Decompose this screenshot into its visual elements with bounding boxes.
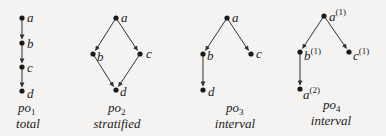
node-b — [90, 51, 95, 56]
node-b1 — [297, 49, 302, 54]
node-label: a — [27, 10, 34, 25]
node-label: c — [256, 46, 262, 61]
node-a — [224, 15, 229, 20]
edge-c-d — [119, 54, 141, 87]
node-c — [19, 64, 24, 69]
node-c1 — [346, 49, 351, 54]
diagram-po1: a b c d po1 total — [16, 10, 40, 131]
diagram-kind: interval — [215, 116, 256, 131]
node-label: d — [120, 84, 127, 99]
node-label: b — [97, 49, 104, 64]
node-label: b — [27, 36, 34, 51]
node-label: c — [27, 60, 33, 75]
node-label: c — [146, 46, 152, 61]
diagram-kind: stratified — [94, 116, 141, 131]
node-b — [200, 51, 205, 56]
diagram-name: po2 — [107, 100, 126, 117]
edge-a-b — [96, 18, 117, 51]
diagram-name: po4 — [322, 97, 341, 114]
partial-orders-figure: a b c d po1 total a b c d po2 stratified… — [0, 0, 386, 136]
diagram-name: po3 — [225, 100, 244, 117]
node-label: b(1) — [304, 46, 321, 63]
node-label: b — [207, 48, 214, 63]
diagram-kind: total — [16, 116, 40, 131]
node-d — [19, 88, 24, 93]
node-b — [19, 40, 24, 45]
node-d — [113, 87, 118, 92]
node-c — [137, 51, 142, 56]
edge-a-b — [206, 18, 228, 51]
node-label: a(2) — [303, 85, 320, 102]
node-label: d — [27, 86, 34, 101]
diagram-kind: interval — [311, 113, 352, 128]
diagram-name: po1 — [17, 100, 36, 117]
node-a2 — [297, 86, 302, 91]
edge-a1-b1 — [303, 16, 325, 49]
node-label: d — [208, 84, 215, 99]
node-label: a — [121, 10, 128, 25]
diagram-po2: a b c d po2 stratified — [90, 10, 152, 131]
diagram-po4: a(1) b(1) c(1) a(2) po4 interval — [297, 7, 369, 128]
node-a — [113, 15, 118, 20]
node-label: a(1) — [329, 7, 346, 24]
node-c — [248, 51, 253, 56]
diagram-po3: a b c d po3 interval — [200, 10, 262, 131]
node-label: a — [232, 10, 239, 25]
node-d — [200, 87, 205, 92]
node-a — [19, 15, 24, 20]
node-a1 — [321, 13, 326, 18]
node-label: c(1) — [353, 46, 369, 63]
